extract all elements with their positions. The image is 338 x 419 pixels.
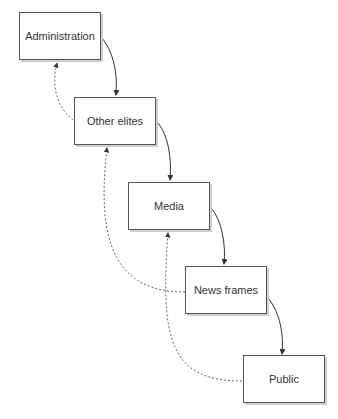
- node-administration: Administration: [19, 12, 101, 60]
- arrow-administration-to-other-elites: [102, 38, 116, 95]
- node-public: Public: [243, 355, 325, 403]
- node-other-elites: Other elites: [74, 97, 156, 145]
- arrow-media-to-news-frames: [211, 208, 224, 264]
- node-label: Administration: [25, 30, 95, 42]
- arrow-news-frames-to-public: [268, 298, 282, 354]
- node-media: Media: [128, 182, 210, 230]
- node-label: Media: [154, 200, 184, 212]
- node-label: Other elites: [87, 115, 143, 127]
- node-label: News frames: [194, 284, 258, 296]
- node-label: Public: [269, 373, 299, 385]
- node-news-frames: News frames: [185, 266, 267, 314]
- arrow-other-elites-to-media: [158, 123, 171, 180]
- feedback-other-elites-to-administration: [55, 63, 73, 120]
